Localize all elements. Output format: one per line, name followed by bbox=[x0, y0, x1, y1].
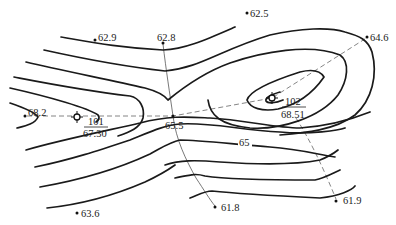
svg-text:62.5: 62.5 bbox=[250, 8, 268, 19]
svg-text:61.9: 61.9 bbox=[343, 195, 361, 206]
spot-height-62-8: 62.8 bbox=[157, 32, 175, 45]
contour-line bbox=[47, 165, 175, 208]
contour-line bbox=[61, 27, 235, 50]
contour-line bbox=[10, 88, 99, 122]
station-102: 102 68.51 bbox=[266, 92, 306, 120]
spot-height-64-6: 64.6 bbox=[366, 32, 389, 43]
contour-line bbox=[175, 170, 340, 180]
svg-text:64.6: 64.6 bbox=[370, 32, 388, 43]
svg-text:68.2: 68.2 bbox=[28, 107, 46, 118]
spot-height-61-9: 61.9 bbox=[335, 195, 362, 206]
contour-line bbox=[190, 186, 355, 198]
svg-text:61.8: 61.8 bbox=[221, 202, 239, 213]
spot-height-62-9: 62.9 bbox=[94, 32, 117, 43]
station-102-elevation: 68.51 bbox=[281, 109, 305, 120]
spot-height-63-6: 63.6 bbox=[76, 208, 100, 219]
svg-text:65.5: 65.5 bbox=[165, 120, 183, 131]
svg-text:63.6: 63.6 bbox=[81, 208, 99, 219]
dashed-line-west-east bbox=[27, 37, 368, 116]
spot-height-62-5: 62.5 bbox=[246, 8, 269, 19]
station-101-elevation: 67.30 bbox=[83, 128, 107, 139]
station-101: 101 67.30 bbox=[71, 111, 108, 139]
station-101-number: 101 bbox=[88, 116, 104, 127]
station-102-number: 102 bbox=[285, 96, 301, 107]
contour-map: 65 62.5 62.9 62.8 64.6 68.2 65.5 63.6 61… bbox=[0, 0, 396, 225]
svg-text:62.8: 62.8 bbox=[157, 32, 175, 43]
svg-text:62.9: 62.9 bbox=[98, 32, 116, 43]
spot-height-61-8: 61.8 bbox=[214, 202, 240, 213]
contour-label-65: 65 bbox=[239, 137, 250, 148]
